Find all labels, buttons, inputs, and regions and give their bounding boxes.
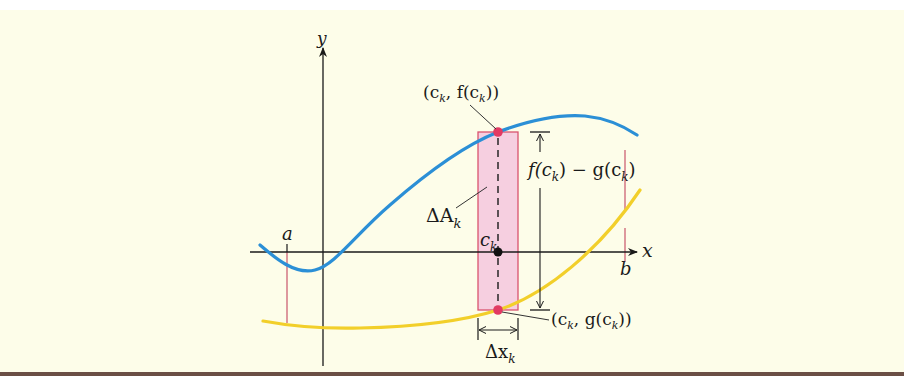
x-axis-label: x	[642, 239, 653, 261]
label-a: a	[282, 223, 293, 244]
label-point-f: (ck, f(ck))	[423, 82, 499, 105]
leader-f-ck	[470, 105, 496, 129]
point-f-ck	[493, 127, 503, 137]
label-b: b	[620, 258, 632, 279]
y-axis-label: y	[316, 28, 327, 48]
area-between-curves-diagram: y x a b ck ΔAk Δxk (ck, f(ck)) (ck, g(ck…	[0, 0, 904, 382]
label-height: f(ck) − g(ck)	[526, 159, 636, 184]
curve-f	[260, 116, 637, 271]
point-g-ck	[493, 305, 503, 315]
label-delta-x: Δxk	[485, 341, 515, 366]
label-point-g: (ck, g(ck))	[551, 309, 632, 332]
leader-g-ck	[502, 312, 549, 320]
